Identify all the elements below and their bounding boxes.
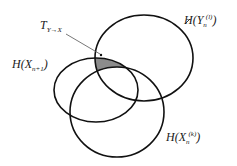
label-t-sub: Y→X [47, 26, 62, 34]
label-h-x-next: H(Xn+1) [12, 58, 48, 73]
pointer-line [66, 34, 100, 54]
label-h-x-past: H(Xn(k)) [166, 131, 200, 146]
label-x-past-sub: n [186, 138, 190, 146]
label-transfer-entropy: TY→X [40, 19, 62, 34]
label-x-past-close: ) [196, 130, 200, 144]
label-y-close: ) [212, 13, 216, 27]
label-x-next-sub: n+1 [32, 65, 44, 73]
label-x-next-close: ) [44, 57, 48, 71]
label-x-next-main: H(X [12, 57, 32, 71]
label-y-main: H(Y [184, 13, 203, 27]
pointer-dot [100, 54, 102, 56]
label-t-main: T [40, 18, 47, 32]
label-x-past-main: H(X [166, 130, 186, 144]
circle-y-past [95, 15, 193, 101]
label-y-sub: n [203, 21, 207, 29]
label-h-y-past: H(Yn(l)) [184, 14, 216, 29]
